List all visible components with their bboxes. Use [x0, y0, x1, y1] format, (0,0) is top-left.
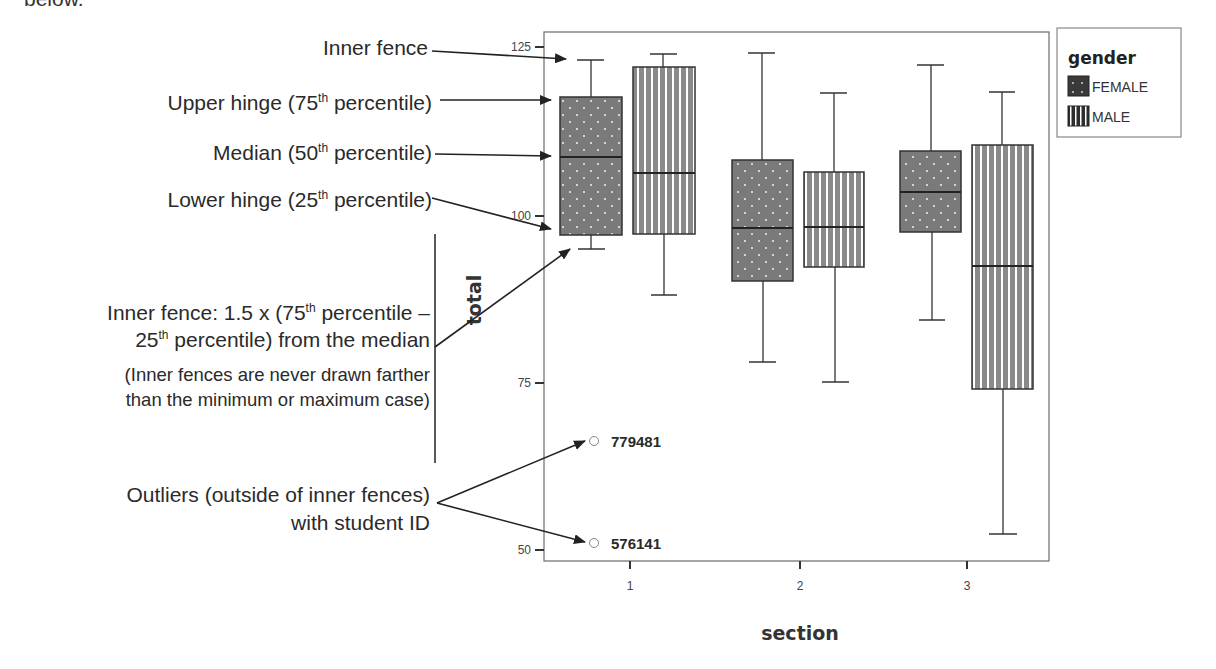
annotation-outliers-line2: with student ID	[290, 511, 430, 534]
stripes-swatch-icon	[1068, 106, 1089, 126]
x-axis-title: section	[761, 622, 839, 644]
legend-item-female: FEMALE	[1068, 76, 1148, 96]
y-tick-label: 50	[518, 543, 532, 557]
legend-item-male: MALE	[1068, 106, 1130, 126]
annotation-upper-hinge: Upper hinge (75th percentile)	[167, 91, 432, 114]
dots-swatch-icon	[1068, 76, 1089, 96]
annotations: Inner fence Upper hinge (75th percentile…	[107, 36, 435, 534]
outlier-label: 779481	[611, 433, 661, 450]
y-axis-title: total	[463, 275, 485, 326]
annotation-fence-note-line2: than the minimum or maximum case)	[126, 389, 430, 410]
annotation-outliers-line1: Outliers (outside of inner fences)	[127, 483, 430, 506]
y-tick-label: 75	[518, 376, 532, 390]
x-axis: 1 2 3 section	[627, 561, 971, 644]
arrow-lower-hinge	[432, 198, 551, 229]
boxplot-figure: below. Inner fence Upper hinge (75th per…	[0, 0, 1216, 669]
legend-label: FEMALE	[1092, 79, 1148, 95]
annotation-lower-hinge: Lower hinge (25th percentile)	[167, 188, 432, 211]
cut-off-heading-text: below.	[24, 0, 84, 10]
plot-area: 125 100 75 50 total 1 2 3 section	[463, 32, 1049, 644]
x-tick-label: 3	[964, 579, 971, 593]
x-tick-label: 2	[797, 579, 804, 593]
legend-label: MALE	[1092, 109, 1130, 125]
legend-title: gender	[1068, 48, 1137, 68]
x-tick-label: 1	[627, 579, 634, 593]
annotation-median: Median (50th percentile)	[213, 141, 432, 164]
annotation-fence-rule-line1: Inner fence: 1.5 x (75th percentile –	[107, 301, 430, 324]
annotation-fence-rule-line2: 25th percentile) from the median	[135, 328, 430, 351]
arrow-median	[435, 154, 551, 156]
outlier-label: 576141	[611, 535, 661, 552]
annotation-inner-fence: Inner fence	[323, 36, 428, 59]
annotation-fence-note-line1: (Inner fences are never drawn farther	[125, 364, 430, 385]
legend: gender FEMALE MALE	[1057, 28, 1181, 137]
y-axis: 125 100 75 50 total	[463, 40, 544, 557]
y-tick-label: 125	[511, 40, 531, 54]
